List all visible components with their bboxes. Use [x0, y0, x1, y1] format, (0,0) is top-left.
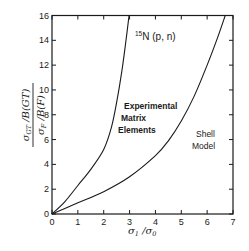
y-tick-label: 2 — [44, 184, 49, 194]
y-tick-label: 0 — [44, 209, 49, 219]
chart-title: 15N (p, n) — [135, 30, 176, 42]
title-main: N (p, n) — [142, 31, 175, 42]
shell-label-line2: Model — [192, 141, 215, 151]
series-label-shell: Shell Model — [192, 129, 217, 151]
y-tick-label: 4 — [44, 159, 49, 169]
y-tick-label: 12 — [39, 60, 49, 70]
exp-label-line3: Elements — [118, 125, 156, 135]
x-tick-label: 6 — [205, 217, 210, 227]
x-tick-label: 7 — [230, 217, 235, 227]
svg-text:σGT /B(GT): σGT /B(GT) — [20, 89, 33, 142]
x-tick-label: 1 — [75, 217, 80, 227]
y-tick-label: 10 — [39, 85, 49, 95]
exp-label-line1: Experimental — [124, 101, 177, 111]
x-tick-label: 0 — [49, 217, 54, 227]
y-tick-label: 14 — [39, 35, 49, 45]
x-tick-label: 5 — [179, 217, 184, 227]
shell-label-line1: Shell — [196, 129, 215, 139]
y-tick-label: 6 — [44, 135, 49, 145]
x-tick-label: 2 — [101, 217, 106, 227]
series-label-experimental: Experimental Matrix Elements — [118, 101, 180, 135]
x-tick-label: 4 — [153, 217, 158, 227]
svg-text:σ1 /σ0: σ1 /σ0 — [128, 225, 156, 238]
y-tick-label: 16 — [39, 11, 49, 21]
x-axis-label: σ1 /σ0 — [128, 225, 156, 238]
exp-label-line2: Matrix — [121, 113, 146, 123]
chart: 012345670246810121416 15N (p, n) Experim… — [0, 0, 249, 251]
